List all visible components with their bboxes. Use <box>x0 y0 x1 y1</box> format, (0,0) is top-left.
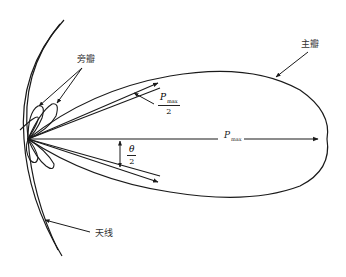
theta-half-label: θ 2 <box>127 144 136 166</box>
radiation-pattern-diagram <box>0 0 346 277</box>
main-lobe-label: 主瓣 <box>301 40 319 49</box>
main-lobe-outline <box>28 71 328 197</box>
pointer-arrows <box>39 52 308 232</box>
pmax-label: Pmax <box>224 131 242 142</box>
side-lobe-label: 旁瓣 <box>77 55 95 64</box>
antenna-label: 天线 <box>95 229 113 238</box>
half-power-label: Pmax 2 <box>158 92 180 116</box>
